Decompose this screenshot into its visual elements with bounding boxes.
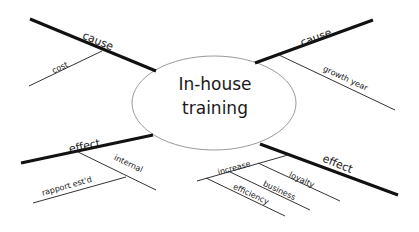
center-line-1: In-house: [133, 72, 297, 96]
diagram-canvas: In-house training cause cost cause growt…: [0, 0, 419, 232]
center-line-2: training: [133, 96, 297, 120]
center-topic: In-house training: [133, 72, 297, 120]
